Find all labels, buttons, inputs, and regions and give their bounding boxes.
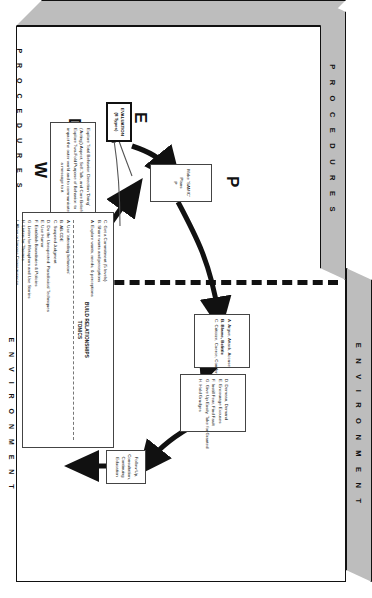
plans-line-2: P	[171, 182, 177, 185]
environment-label-top: E N V I R O N M E N T	[346, 268, 372, 582]
diagram-canvas: E N V I R O N M E N T P R O C E D U R E …	[0, 0, 372, 598]
tonics-item: A. Use 'attending behaviors'	[64, 220, 70, 440]
evaluation-box: EVALUATION (8 Types)	[106, 102, 132, 142]
evaluation-line-2: (8 Types)	[113, 113, 119, 132]
tonics-item: I. Allow or Impose Consequences	[16, 220, 20, 440]
followup-line-1: Follow Up,	[132, 457, 138, 478]
tonics-item: D. Do the Unexpected: Paradoxical Techni…	[45, 220, 51, 440]
followup-line-2: Consultation,	[126, 454, 132, 480]
letter-p: P	[222, 176, 242, 187]
toxins-box-defgh: D. Demean, Demand E. Encourage Excuses F…	[180, 374, 246, 432]
tonics-heading-line-1: BUILD RELATIONSHIPS	[82, 220, 89, 440]
left-wall-bevel	[16, 0, 346, 26]
toxin-item: D. Demean, Demand	[223, 379, 229, 427]
tonics-item: C. Suspend Judgment	[51, 220, 57, 440]
tonics-heading-line-2: TONICS	[76, 220, 83, 440]
followup-line-4: Education	[113, 457, 119, 477]
tonics-item: G. Listen for Metaphors and Use Stories	[26, 220, 32, 440]
toxin-item: A. Argue, Attack, Accuse	[225, 319, 231, 363]
toxin-item: E. Encourage Excuses	[216, 379, 222, 427]
plans-line-1: Make 'SAMIC' Plans	[178, 169, 191, 197]
diagram-root: E N V I R O N M E N T P R O C E D U R E …	[0, 0, 372, 598]
tonics-pre-item: B. Share wants and perceptions	[95, 220, 101, 440]
toxin-item: H. Hold Grudges	[197, 379, 203, 427]
diagram-board: P E D W Make 'SAMIC' Plans P EVALUATION …	[16, 26, 346, 582]
tonics-pre-item: C. Get a Commitment (5 levels)	[102, 220, 108, 440]
followup-line-3: Continuing	[120, 457, 126, 478]
evaluation-line-1: EVALUATION	[119, 108, 125, 136]
toxin-item: B. Blame, Belittle	[219, 319, 225, 363]
toxin-item: F. Instill Fear, Find Fault	[210, 379, 216, 427]
toxin-item: C. Criticize, Coerce, Condemn	[212, 319, 218, 363]
toxin-item: G. Give Up Easily, Take for Granted	[203, 379, 209, 427]
tonics-item: H. Listen for Themes	[20, 220, 26, 440]
letter-e: E	[130, 112, 150, 123]
tonics-pre-item: A. Explore wants, needs, & perceptions	[89, 220, 95, 440]
tonics-divider	[73, 220, 74, 440]
tonics-item: F. Establish Boundaries & Policies	[32, 220, 38, 440]
make-samic-plans-box: Make 'SAMIC' Plans P	[150, 164, 212, 202]
environment-shelf: E N V I R O N M E N T	[346, 268, 372, 582]
build-relationships-tonics-box: C. Get a Commitment (5 levels) B. Share …	[22, 212, 114, 448]
toxins-box-abc: A. Argue, Attack, Accuse B. Blame, Belit…	[194, 314, 250, 368]
letter-w: W	[30, 162, 50, 178]
follow-up-box: Follow Up, Consultation, Continuing Educ…	[106, 450, 146, 484]
